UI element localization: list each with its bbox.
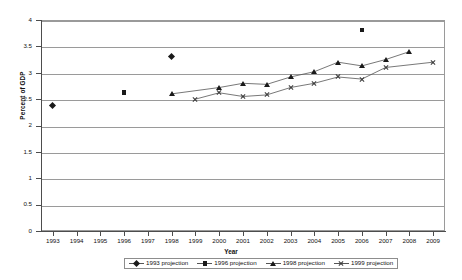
legend-marker-icon: [197, 260, 212, 267]
legend-label: 1998 projection: [283, 260, 325, 266]
y-axis-tick-label: 0: [6, 228, 32, 234]
legend-label: 1999 projection: [351, 260, 393, 266]
legend-marker-icon: [129, 260, 144, 267]
y-axis-tick: [36, 126, 41, 127]
x-axis-tick: [100, 232, 101, 236]
x-axis-tick: [148, 232, 149, 236]
y-axis-tick-label: 1: [6, 175, 32, 181]
x-axis-tick: [433, 232, 434, 236]
gridline: [42, 127, 444, 128]
x-axis-tick: [195, 232, 196, 236]
y-axis-tick: [36, 178, 41, 179]
x-axis-tick: [362, 232, 363, 236]
legend-marker-icon: [334, 260, 349, 267]
gridline: [42, 179, 444, 180]
gridline: [42, 206, 444, 207]
gridline: [42, 47, 444, 48]
x-axis-tick: [243, 232, 244, 236]
y-axis-tick-label: 2.5: [6, 96, 32, 102]
gdp-projection-chart: Percent of GDP Year 00.511.522.533.54 19…: [0, 0, 462, 280]
y-axis-tick-label: 3.5: [6, 43, 32, 49]
legend-item[interactable]: 1999 projection: [334, 260, 393, 267]
x-axis-tick: [124, 232, 125, 236]
x-axis-tick: [314, 232, 315, 236]
y-axis-tick: [36, 205, 41, 206]
legend-item[interactable]: 1996 projection: [197, 260, 256, 267]
y-axis-tick: [36, 99, 41, 100]
x-axis-tick: [338, 232, 339, 236]
x-axis-tick: [409, 232, 410, 236]
x-axis-tick: [219, 232, 220, 236]
gridline: [42, 153, 444, 154]
y-axis-tick: [36, 73, 41, 74]
x-axis-title: Year: [0, 248, 462, 255]
plot-area: [41, 20, 445, 231]
y-axis-tick: [36, 231, 41, 232]
y-axis-tick-label: 1.5: [6, 149, 32, 155]
y-axis-tick: [36, 152, 41, 153]
x-axis-tick: [53, 232, 54, 236]
legend-item[interactable]: 1998 projection: [266, 260, 325, 267]
legend-marker-icon: [266, 260, 281, 267]
y-axis-tick: [36, 20, 41, 21]
x-axis-tick: [291, 232, 292, 236]
x-axis-tick: [386, 232, 387, 236]
x-axis-tick: [267, 232, 268, 236]
gridline: [42, 100, 444, 101]
legend-label: 1993 projection: [146, 260, 188, 266]
y-axis-line: [41, 20, 42, 232]
legend-label: 1996 projection: [214, 260, 256, 266]
gridline: [42, 74, 444, 75]
y-axis-tick-label: 2: [6, 122, 32, 128]
chart-legend: 1993 projection1996 projection1998 proje…: [124, 258, 398, 269]
x-axis-tick-label: 2009: [416, 237, 450, 244]
y-axis-tick: [36, 46, 41, 47]
gridline: [42, 21, 444, 22]
y-axis-tick-label: 4: [6, 17, 32, 23]
y-axis-tick-label: 0.5: [6, 201, 32, 207]
x-axis-tick: [172, 232, 173, 236]
y-axis-tick-label: 3: [6, 70, 32, 76]
legend-item[interactable]: 1993 projection: [129, 260, 188, 267]
x-axis-tick: [77, 232, 78, 236]
